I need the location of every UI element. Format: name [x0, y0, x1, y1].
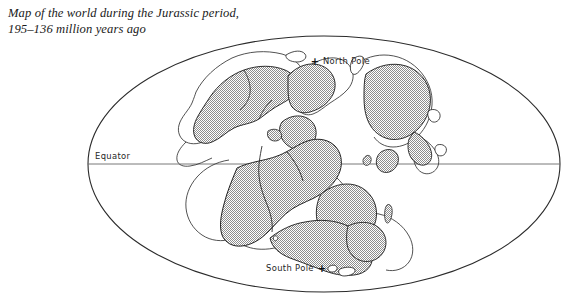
land-tethys-sliver-a [267, 129, 281, 141]
equator-label: Equator [95, 151, 131, 161]
land-islet-gondwana-notch [273, 236, 277, 241]
world-map-svg: + North Pole Equator South Pole + [0, 0, 579, 305]
land-australia-lobe [347, 222, 386, 261]
south-pole-marker: + [318, 263, 326, 274]
land-eurasia-islet-b [435, 144, 447, 155]
north-pole-label: North Pole [323, 56, 370, 66]
north-pole-marker: + [311, 56, 319, 67]
jurassic-world-map-figure: Map of the world during the Jurassic per… [0, 0, 579, 305]
south-pole-label: South Pole [266, 263, 314, 273]
land-south-polar-islet-a [328, 265, 337, 272]
